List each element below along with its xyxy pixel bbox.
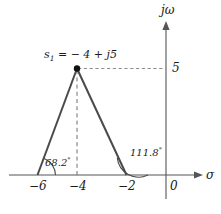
angle-left-value: 68.2 — [45, 157, 67, 168]
angle-label-left: 68.2° — [45, 157, 71, 168]
vector-from-minus2 — [77, 69, 127, 176]
real-tick-minus6: −6 — [29, 180, 47, 192]
real-tick-zero: 0 — [170, 180, 178, 192]
angle-right-degree-sign: ° — [159, 146, 162, 154]
angle-label-right: 111.8° — [130, 147, 162, 158]
angle-arc-right — [117, 158, 148, 177]
real-axis-label: σ — [206, 169, 214, 181]
s-plane-figure: jω σ 5 −6 −4 −2 0 s1 = − 4 + j5 68.2° 11… — [0, 0, 221, 214]
angle-right-value: 111.8 — [130, 147, 159, 158]
point-label-s1: s1 = − 4 + j5 — [44, 49, 117, 63]
imaginary-axis-label: jω — [161, 4, 175, 16]
imaginary-tick-5: 5 — [172, 62, 180, 74]
real-tick-minus4: −4 — [69, 180, 87, 192]
real-tick-minus2: −2 — [118, 180, 136, 192]
point-label-expression: = − 4 + j5 — [54, 48, 117, 61]
imaginary-axis — [162, 21, 169, 199]
point-s1-marker — [74, 65, 80, 71]
angle-left-degree-sign: ° — [67, 156, 70, 164]
